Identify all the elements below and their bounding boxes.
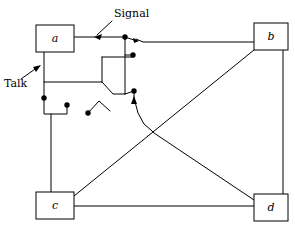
contact-dot-signal-aux[interactable] xyxy=(130,52,135,57)
switching-network-diagram: a b c d Signal Talk xyxy=(0,0,295,227)
node-label-a: a xyxy=(52,32,59,45)
contact-dot-blade-lower-end[interactable] xyxy=(85,110,90,115)
wire-b-to-signal-switch xyxy=(136,39,254,42)
contact-dot-talk-c[interactable] xyxy=(64,102,69,107)
wire-group xyxy=(44,37,283,206)
blade-arrowhead-group xyxy=(131,38,139,104)
wire-diagonal-c-to-b-upper xyxy=(148,50,254,136)
node-label-c: c xyxy=(52,199,58,212)
wire-blade-lower xyxy=(88,101,110,113)
arrowhead-cross-stub xyxy=(131,96,137,104)
contact-dot-talk-a[interactable] xyxy=(41,95,46,100)
node-label-b: b xyxy=(267,30,274,43)
wire-talk-lower-run xyxy=(44,98,67,114)
wire-diagonal-switch-to-d xyxy=(134,98,254,200)
annotation-leader-signal xyxy=(97,21,112,35)
contact-dot-mid-lower[interactable] xyxy=(131,88,136,93)
arrowhead-talk xyxy=(33,65,41,72)
node-label-d: d xyxy=(267,201,274,214)
wire-diagonal-c-to-b xyxy=(74,136,148,196)
contact-dot-signal-a[interactable] xyxy=(122,34,127,39)
annotation-label-talk: Talk xyxy=(4,77,28,90)
arrowhead-signal xyxy=(94,34,102,40)
diagram-canvas: a b c d Signal Talk xyxy=(0,0,295,227)
wire-inner-step xyxy=(102,82,125,94)
annotation-group: Signal Talk xyxy=(4,7,150,90)
annotation-label-signal: Signal xyxy=(114,7,150,20)
